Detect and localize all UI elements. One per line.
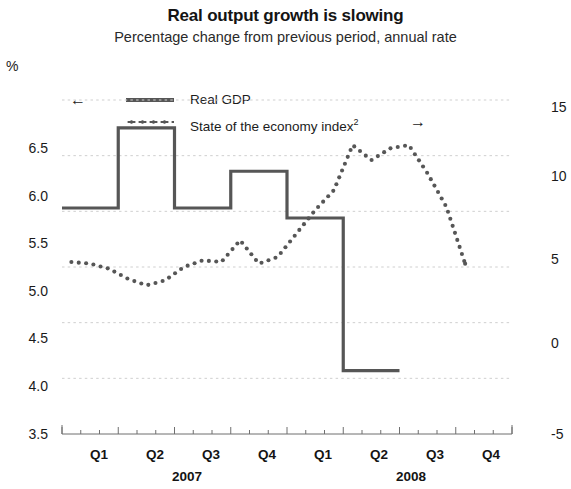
x-axis-label-q3-2007: Q3 bbox=[191, 447, 231, 462]
y-axis-left-tick-1: 6.0 bbox=[4, 189, 48, 203]
x-axis-label-q4-2007: Q4 bbox=[247, 447, 287, 462]
y-axis-left-tick-5: 4.0 bbox=[4, 379, 48, 393]
x-axis-ticks bbox=[62, 427, 512, 434]
y-axis-left-tick-3: 5.0 bbox=[4, 284, 48, 298]
x-axis-label-q1-2007: Q1 bbox=[79, 447, 119, 462]
x-axis-year-2007: 2007 bbox=[152, 469, 222, 484]
plot-svg bbox=[62, 100, 512, 434]
y-axis-left-tick-0: 6.5 bbox=[4, 141, 48, 155]
chart-root: Real output growth is slowing Percentage… bbox=[0, 0, 571, 489]
x-axis-label-q1-2008: Q1 bbox=[303, 447, 343, 462]
y-axis-left-tick-2: 5.5 bbox=[4, 236, 48, 250]
y-axis-unit-label: % bbox=[6, 58, 18, 74]
y-axis-right-tick-3: 0 bbox=[551, 336, 571, 350]
x-axis-label-q2-2008: Q2 bbox=[359, 447, 399, 462]
chart-subtitle: Percentage change from previous period, … bbox=[0, 29, 571, 45]
y-axis-right-tick-0: 15 bbox=[551, 100, 571, 114]
page-title: Real output growth is slowing bbox=[0, 6, 571, 26]
x-axis-label-q2-2007: Q2 bbox=[135, 447, 175, 462]
y-axis-right-tick-4: -5 bbox=[551, 427, 571, 441]
y-axis-left-tick-6: 3.5 bbox=[4, 427, 48, 441]
y-axis-right-tick-1: 10 bbox=[551, 169, 571, 183]
y-axis-right-tick-2: 5 bbox=[551, 252, 571, 266]
x-axis-year-2008: 2008 bbox=[376, 469, 446, 484]
x-axis-label-q4-2008: Q4 bbox=[471, 447, 511, 462]
y-axis-left-tick-4: 4.5 bbox=[4, 331, 48, 345]
series-dots-economy-index bbox=[69, 144, 467, 287]
gridlines bbox=[62, 100, 512, 434]
plot-area bbox=[62, 100, 512, 434]
x-axis-label-q3-2008: Q3 bbox=[415, 447, 455, 462]
